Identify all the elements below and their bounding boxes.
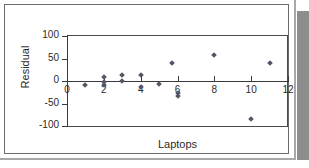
- x-axis-tick: [178, 76, 179, 82]
- y-axis-tick: [62, 59, 68, 60]
- y-axis-tick: [62, 104, 68, 105]
- scatter-point: [157, 82, 162, 87]
- scatter-point: [83, 83, 88, 88]
- x-axis-tick-label: 12: [277, 84, 299, 95]
- scatter-point: [101, 83, 106, 88]
- scatter-point: [138, 85, 143, 90]
- x-axis-title: Laptops: [67, 138, 288, 150]
- scatter-point: [169, 61, 174, 66]
- y-axis-tick-label: 50: [21, 53, 59, 63]
- y-axis-tick-label: 100: [21, 30, 59, 40]
- y-axis-tick-label: 0: [21, 75, 59, 85]
- window-drop-shadow-bottom: [0, 160, 309, 168]
- x-axis-tick-label: 10: [240, 84, 262, 95]
- x-axis-tick: [67, 76, 68, 82]
- x-axis-tick: [214, 76, 215, 82]
- x-axis-tick: [288, 76, 289, 82]
- y-axis-tick: [62, 126, 68, 127]
- y-axis-tick-label: -50: [21, 98, 59, 108]
- y-axis-tick: [62, 36, 68, 37]
- scatter-point: [175, 94, 180, 99]
- x-axis-tick-label: 0: [56, 84, 78, 95]
- scatter-point: [267, 61, 272, 66]
- scatter-point: [212, 53, 217, 58]
- y-axis-tick-label: -100: [21, 120, 59, 130]
- x-axis-tick: [251, 76, 252, 82]
- scatter-point: [120, 79, 125, 84]
- scatter-point: [120, 73, 125, 78]
- document-page: Residual 100500-50-100 024681012 Laptops: [0, 0, 296, 160]
- x-axis-tick-label: 8: [203, 84, 225, 95]
- chart-container: Residual 100500-50-100 024681012 Laptops: [4, 4, 289, 154]
- scatter-point: [249, 117, 254, 122]
- scatter-point: [138, 73, 143, 78]
